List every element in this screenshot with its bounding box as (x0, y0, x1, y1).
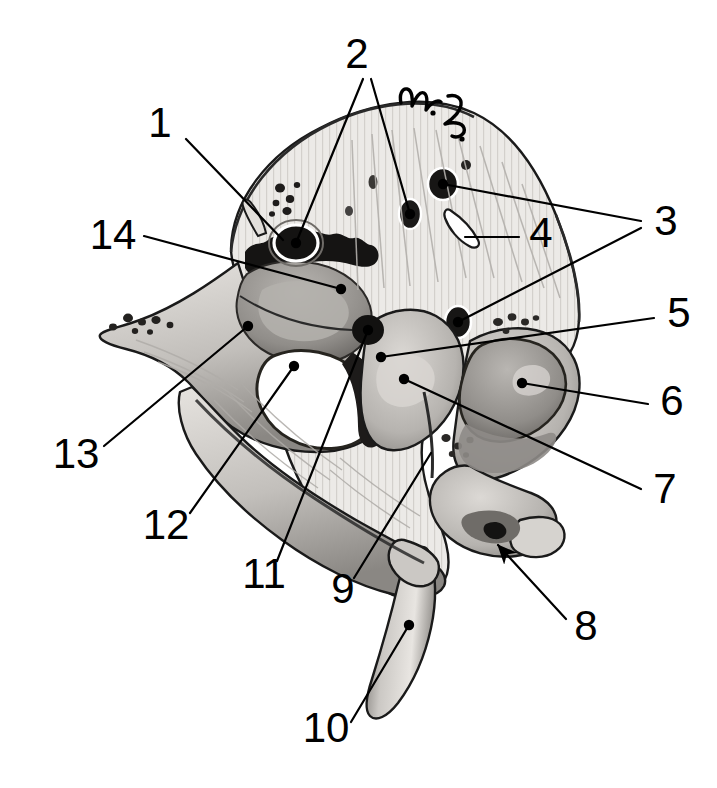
label-number-12[interactable]: 12 (143, 501, 190, 548)
leader-dot-2b (405, 209, 415, 219)
label-number-2[interactable]: 2 (345, 30, 368, 77)
anatomical-figure: 1234567891011121314 Temporal bone, petro… (0, 0, 717, 788)
label-number-11[interactable]: 11 (242, 550, 286, 597)
label-number-1[interactable]: 1 (148, 99, 171, 146)
leader-dot-2a (291, 238, 301, 248)
label-number-14[interactable]: 14 (90, 211, 137, 258)
leader-dot-7 (399, 374, 409, 384)
leader-dot-3a (438, 179, 448, 189)
label-number-10[interactable]: 10 (303, 704, 350, 751)
accessory-foramen-c (345, 206, 353, 216)
leader-dot-5 (376, 352, 386, 362)
leader-dot-3b (453, 317, 463, 327)
label-number-9[interactable]: 9 (331, 565, 354, 612)
label-number-6[interactable]: 6 (660, 377, 683, 424)
leader-dot-12 (289, 361, 299, 371)
leader-dot-10 (404, 620, 414, 630)
label-number-3[interactable]: 3 (654, 197, 677, 244)
label-number-4[interactable]: 4 (529, 209, 552, 256)
figure-canvas: 1234567891011121314 (0, 0, 717, 788)
label-number-7[interactable]: 7 (653, 465, 676, 512)
leader-dot-6 (517, 378, 527, 388)
label-number-8[interactable]: 8 (574, 602, 597, 649)
leader-dot-11 (363, 325, 373, 335)
leader-dot-14 (336, 284, 346, 294)
label-number-5[interactable]: 5 (667, 289, 690, 336)
label-number-13[interactable]: 13 (53, 430, 100, 477)
bone-drawing (100, 102, 580, 719)
leader-dot-13 (243, 321, 253, 331)
